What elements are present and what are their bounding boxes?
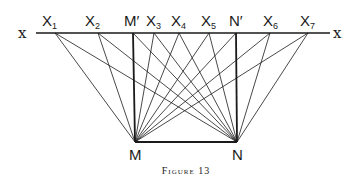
label-x7: X7 (300, 12, 315, 31)
label-x-right: x (333, 24, 342, 42)
label-m-prime: M′ (124, 12, 139, 29)
label-m: M (129, 146, 142, 163)
label-x2: X2 (85, 12, 100, 31)
segment-n-nprime (236, 33, 237, 142)
label-n-prime: N′ (229, 12, 243, 29)
label-x6: X6 (263, 12, 278, 31)
rays-from-n (55, 33, 308, 142)
segment-m-mprime (133, 33, 135, 142)
label-x-left: x (18, 24, 27, 42)
label-x5: X5 (201, 12, 216, 31)
label-x4: X4 (171, 12, 186, 31)
label-x3: X3 (146, 12, 161, 31)
label-n: N (232, 146, 243, 163)
figure-13-diagram: x x X1 X2 M′ X3 X4 X5 N′ X6 X7 M N Figur… (0, 0, 361, 178)
rays-from-m (55, 33, 308, 142)
figure-caption: Figure 13 (162, 165, 210, 176)
label-x1: X1 (42, 12, 57, 31)
